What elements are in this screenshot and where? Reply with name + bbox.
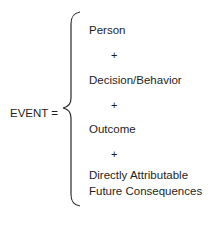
component-decision-behavior: Decision/Behavior bbox=[89, 73, 182, 87]
component-person: Person bbox=[89, 23, 125, 37]
component-future-consequences-line1: Directly Attributable bbox=[89, 168, 188, 182]
component-future-consequences-line2: Future Consequences bbox=[89, 184, 202, 198]
plus-operator-2: + bbox=[111, 99, 117, 111]
plus-operator-1: + bbox=[111, 49, 117, 61]
plus-operator-3: + bbox=[111, 148, 117, 160]
component-outcome: Outcome bbox=[89, 122, 136, 136]
